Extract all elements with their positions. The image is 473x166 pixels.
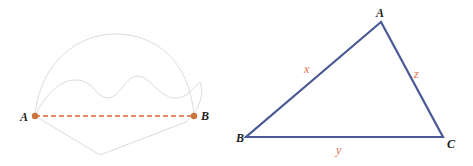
point-a-dot bbox=[32, 113, 38, 119]
left-figure: A B bbox=[19, 34, 209, 155]
vertex-a-label: A bbox=[375, 6, 384, 20]
right-figure: A B C x y z bbox=[235, 6, 456, 157]
lower-broken-path bbox=[35, 116, 186, 155]
vertex-c-label: C bbox=[447, 137, 456, 151]
point-b-dot bbox=[191, 113, 197, 119]
side-z-label: z bbox=[413, 67, 419, 81]
side-y-label: y bbox=[335, 143, 342, 157]
point-b-label: B bbox=[200, 109, 209, 123]
wavy-path bbox=[35, 76, 202, 122]
side-x-label: x bbox=[303, 62, 310, 76]
point-a-label: A bbox=[19, 110, 28, 124]
arc-path bbox=[35, 34, 194, 116]
vertex-b-label: B bbox=[235, 131, 244, 145]
diagram-canvas: A B A B C x y z bbox=[0, 0, 473, 166]
